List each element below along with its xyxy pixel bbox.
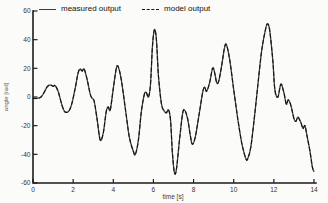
dashed-line-sample-icon [142, 9, 159, 10]
x-tick-label: 8 [192, 186, 196, 193]
legend-entry-model: model output [142, 5, 210, 13]
y-axis-label: angle [rad] [3, 83, 9, 111]
legend: measured output model output [39, 5, 210, 13]
x-axis-label: time [s] [163, 193, 184, 200]
figure: -60-40-20020406002468101214 measured out… [0, 0, 328, 203]
x-tick-label: 2 [71, 186, 75, 193]
legend-label-measured: measured output [61, 5, 121, 13]
legend-label-model: model output [164, 5, 210, 13]
y-tick-label: 0 [27, 93, 31, 100]
x-tick-label: 10 [230, 186, 238, 193]
x-tick-label: 14 [310, 186, 318, 193]
y-tick-label: 20 [23, 65, 31, 72]
solid-line-sample-icon [39, 9, 56, 10]
y-tick-label: -60 [21, 179, 31, 186]
x-tick-label: 0 [31, 186, 35, 193]
line-chart: -60-40-20020406002468101214 [0, 0, 328, 203]
series-measured-output [33, 24, 314, 174]
y-tick-label: -40 [21, 151, 31, 158]
x-tick-label: 6 [152, 186, 156, 193]
y-tick-label: 40 [23, 36, 31, 43]
axes-lines [33, 11, 316, 183]
y-tick-label: -20 [21, 122, 31, 129]
x-tick-label: 4 [111, 186, 115, 193]
x-tick-label: 12 [270, 186, 278, 193]
y-tick-label: 60 [23, 7, 31, 14]
legend-entry-measured: measured output [39, 5, 121, 13]
